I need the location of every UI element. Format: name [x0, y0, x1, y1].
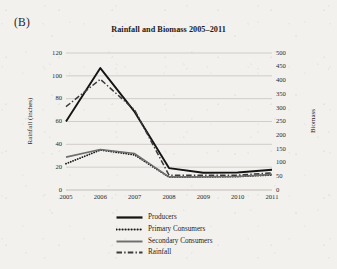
y-axis-right-tick-label: 200 [276, 132, 286, 139]
x-axis-tick-label: 2010 [231, 194, 244, 201]
legend-item-label: Producers [148, 214, 177, 221]
y-axis-left-tick-label: 100 [52, 73, 62, 80]
x-axis-tick-label: 2006 [94, 194, 107, 201]
plot-canvas [66, 53, 272, 190]
y-axis-left-title: Rainfall (inches) [26, 98, 34, 145]
y-axis-left-tick-label: 20 [55, 164, 62, 171]
series-line [66, 79, 272, 175]
y-axis-right-tick-label: 50 [276, 173, 283, 180]
figure-panel: (B) Rainfall and Biomass 2005–2011 Rainf… [0, 0, 337, 269]
y-axis-right-tick-label: 350 [276, 91, 286, 98]
y-axis-left-tick-label: 60 [55, 118, 62, 125]
chart-legend: ProducersPrimary ConsumersSecondary Cons… [116, 213, 212, 258]
x-axis-tick-label: 2005 [59, 194, 72, 201]
dash-dot-line-icon [116, 248, 143, 257]
y-axis-right-tick-label: 500 [276, 50, 286, 57]
y-axis-right-title: Biomass [309, 109, 317, 133]
series-line [66, 68, 272, 173]
legend-item-label: Secondary Consumers [148, 238, 212, 245]
chart-title: Rainfall and Biomass 2005–2011 [0, 25, 337, 34]
x-axis-tick-label: 2009 [197, 194, 210, 201]
y-axis-right-tick-label: 450 [276, 63, 286, 70]
solid-gray-line-icon [116, 237, 143, 246]
y-axis-left-tick-label: 40 [55, 141, 62, 148]
y-axis-right-tick-label: 100 [276, 159, 286, 166]
legend-item: Primary Consumers [116, 225, 212, 235]
legend-item-label: Rainfall [148, 249, 171, 256]
y-axis-right-tick-label: 250 [276, 118, 286, 125]
y-axis-left-tick-label: 80 [55, 95, 62, 102]
solid-black-line-icon [116, 213, 143, 222]
y-axis-right-tick-label: 300 [276, 105, 286, 112]
legend-item: Producers [116, 213, 212, 223]
y-axis-right-tick-label: 400 [276, 77, 286, 84]
legend-item: Secondary Consumers [116, 236, 212, 246]
plot-area: 020406080100120 050100150200250300350400… [66, 53, 272, 190]
legend-item-label: Primary Consumers [148, 226, 205, 233]
legend-item: Rainfall [116, 248, 212, 258]
x-axis-tick-label: 2011 [266, 194, 279, 201]
x-axis-tick-label: 2007 [128, 194, 141, 201]
dotted-line-icon [116, 225, 143, 234]
y-axis-right-tick-label: 150 [276, 146, 286, 153]
y-axis-left-tick-label: 120 [52, 50, 62, 57]
x-axis-tick-label: 2008 [162, 194, 175, 201]
